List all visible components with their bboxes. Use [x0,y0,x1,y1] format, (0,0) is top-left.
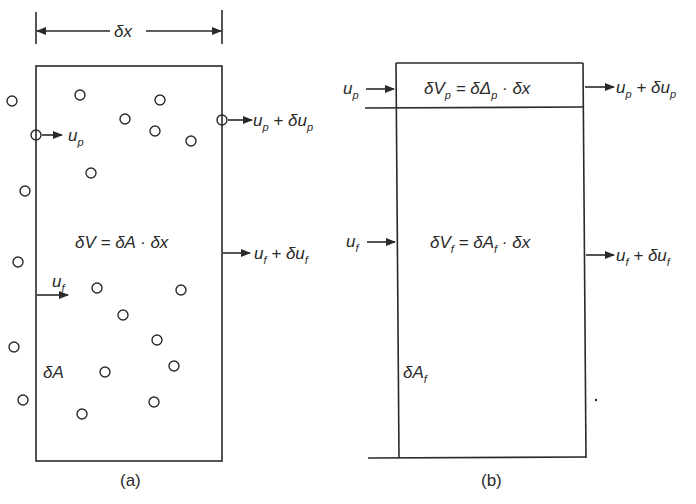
caption-b: (b) [481,471,502,490]
caption-a: (a) [120,471,141,490]
particle-circle-icon [100,367,110,377]
dimension-delta-x: δx [36,10,222,44]
two-phase-control-volume-figure: δx up up + δup δV = δA · δx uf + δuf uf … [0,0,696,504]
particle-circle-icon [149,397,159,407]
b-outlet-fluid-velocity-label: uf + δuf [616,246,671,268]
particle-circle-icon [186,136,196,146]
particle-circle-icon [118,310,128,320]
particle-circle-icon [120,114,130,124]
phase-interface-line [365,107,583,108]
panel-a: δx up up + δup δV = δA · δx uf + δuf uf … [7,10,313,490]
particle-circle-icon [75,90,85,100]
area-label: δA [43,363,64,382]
particle-circle-icon [150,126,160,136]
b-outlet-particle-velocity-label: up + δup [616,78,676,100]
b-inlet-fluid-velocity-label: uf [346,232,359,254]
b-area-label: δAf [403,363,428,385]
outlet-fluid-velocity-label: uf + δuf [254,244,309,266]
particle-circle-icon [18,395,28,405]
particle-circle-icon [155,95,165,105]
particle-field [7,90,227,419]
particle-circle-icon [13,257,23,267]
b-inlet-particle-velocity-label: up [343,79,359,101]
panel-b: up δVp = δΔp · δx up + δup uf δVf = δAf … [343,63,676,490]
particle-volume-equation: δVp = δΔp · δx [424,79,531,101]
particle-circle-icon [152,335,162,345]
control-volume-box-a [36,66,222,461]
particle-circle-icon [9,342,19,352]
particle-circle-icon [92,283,102,293]
inlet-fluid-velocity-label: uf [52,272,65,294]
box-b-right [583,63,586,458]
particle-circle-icon [7,96,17,106]
outlet-particle-velocity-label: up + δup [253,111,313,133]
box-b-left [396,63,399,458]
inlet-particle-velocity-label: up [68,126,84,148]
box-b-bottom [368,457,586,458]
particle-circle-icon [169,361,179,371]
stray-dot [595,399,597,401]
dimension-label: δx [114,22,132,41]
particle-circle-icon [77,409,87,419]
particle-circle-icon [176,285,186,295]
particle-circle-icon [20,186,30,196]
fluid-volume-equation: δVf = δAf · δx [430,233,531,255]
particle-circle-icon [86,168,96,178]
volume-equation: δV = δA · δx [75,233,169,252]
